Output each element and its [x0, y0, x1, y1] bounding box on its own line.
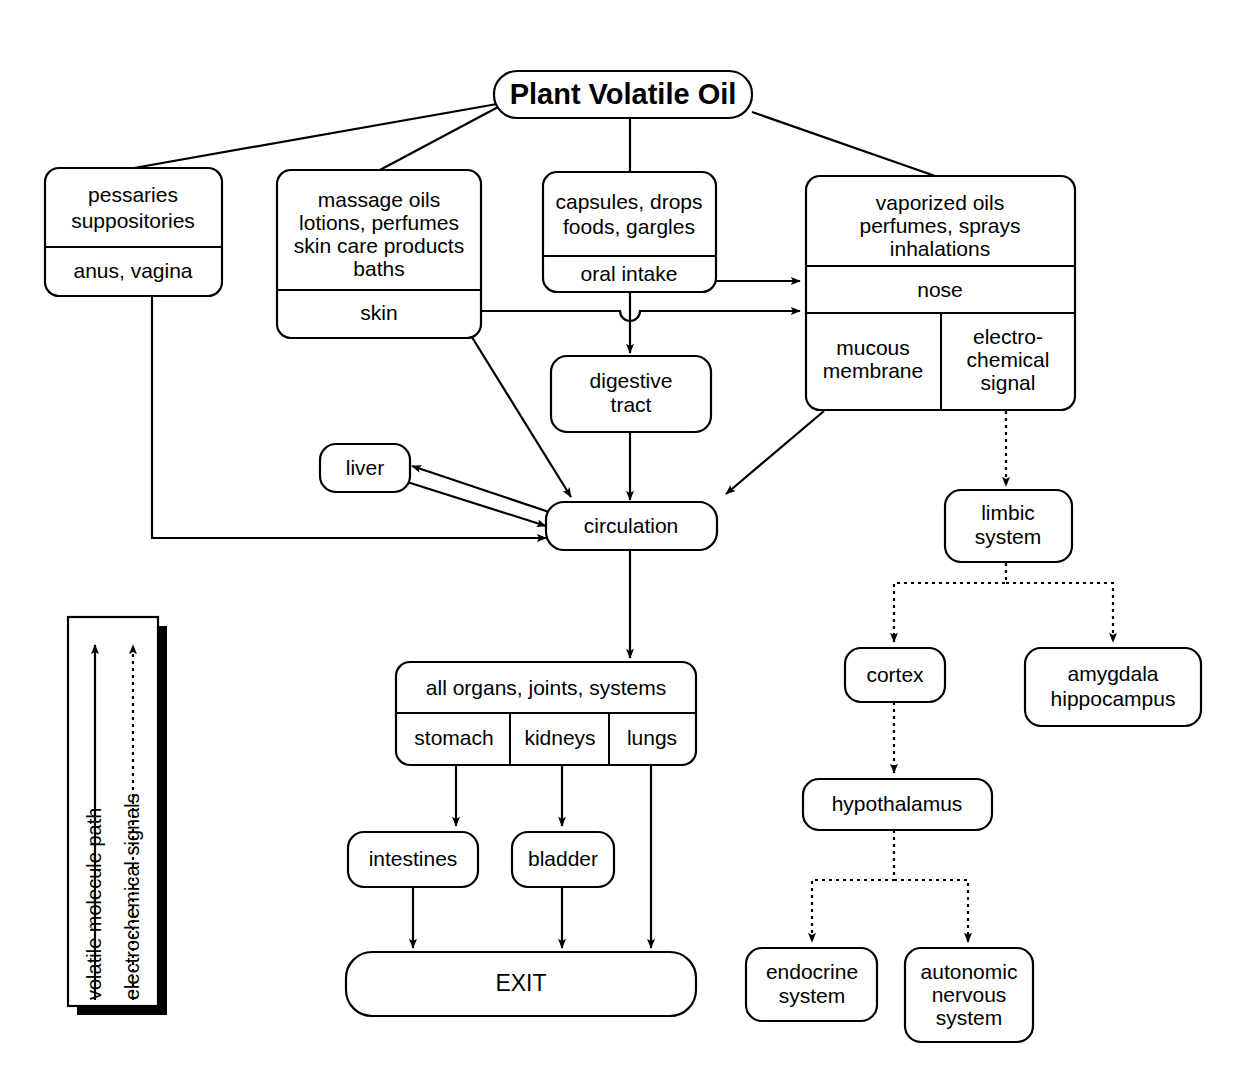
flowchart-canvas: Plant Volatile Oil pessaries suppositori…: [0, 0, 1242, 1078]
capsules-line2: foods, gargles: [563, 215, 695, 238]
vaporized-line3: inhalations: [890, 237, 990, 260]
node-digestive-tract[interactable]: digestive tract: [551, 356, 711, 432]
node-exit[interactable]: EXIT: [346, 952, 696, 1016]
massage-line1: massage oils: [318, 188, 441, 211]
exit-label: EXIT: [495, 970, 546, 996]
edge-root-to-massage: [378, 106, 500, 171]
legend-box: [68, 617, 158, 1006]
cortex-label: cortex: [866, 663, 924, 686]
node-autonomic-nervous-system[interactable]: autonomic nervous system: [905, 948, 1033, 1042]
digestive-line2: tract: [611, 393, 652, 416]
node-massage-oils[interactable]: massage oils lotions, perfumes skin care…: [277, 170, 481, 338]
legend-dotted-label: electrochemical signals: [121, 793, 143, 1000]
node-liver[interactable]: liver: [320, 444, 410, 492]
autonomic-line2: nervous: [932, 983, 1007, 1006]
amygdala-line2: hippocampus: [1051, 687, 1176, 710]
pessaries-line1: pessaries: [88, 183, 178, 206]
autonomic-line3: system: [936, 1006, 1003, 1029]
limbic-line1: limbic: [981, 501, 1035, 524]
edge-hypothalamus-to-endocrine: [812, 830, 894, 942]
organs-col3: lungs: [627, 726, 677, 749]
edge-hypothalamus-to-autonomic: [894, 880, 968, 942]
amygdala-line1: amygdala: [1067, 662, 1158, 685]
organs-col2: kidneys: [524, 726, 595, 749]
vaporized-line2: perfumes, sprays: [859, 214, 1020, 237]
node-endocrine-system[interactable]: endocrine system: [746, 948, 877, 1021]
edge-limbic-to-branch: [894, 563, 1006, 642]
node-vaporized-oils[interactable]: vaporized oils perfumes, sprays inhalati…: [806, 176, 1075, 410]
node-intestines[interactable]: intestines: [348, 832, 478, 887]
intestines-label: intestines: [369, 847, 458, 870]
vaporized-route: nose: [917, 278, 963, 301]
legend: volatile molecule path electrochemical s…: [68, 617, 167, 1015]
node-cortex[interactable]: cortex: [845, 648, 945, 702]
legend-solid-label: volatile molecule path: [83, 808, 105, 1000]
flowchart-svg: Plant Volatile Oil pessaries suppositori…: [0, 0, 1242, 1078]
liver-label: liver: [346, 456, 385, 479]
digestive-line1: digestive: [590, 369, 673, 392]
circulation-label: circulation: [584, 514, 679, 537]
autonomic-line1: autonomic: [921, 960, 1018, 983]
node-circulation[interactable]: circulation: [546, 502, 717, 550]
edge-limbic-to-amygdala: [1006, 583, 1113, 642]
edge-root-to-vaporized: [752, 112, 938, 177]
node-hypothalamus[interactable]: hypothalamus: [803, 779, 992, 830]
organs-header: all organs, joints, systems: [426, 676, 666, 699]
edge-mucous-to-circulation: [726, 411, 824, 494]
organs-col1: stomach: [414, 726, 493, 749]
signal-line2: chemical: [967, 348, 1050, 371]
hypothalamus-label: hypothalamus: [832, 792, 963, 815]
edge-skin-to-nose: [481, 311, 800, 321]
signal-line1: electro-: [973, 325, 1043, 348]
mucous-line2: membrane: [823, 359, 923, 382]
capsules-line1: capsules, drops: [555, 190, 702, 213]
pessaries-line2: suppositories: [71, 209, 195, 232]
vaporized-line1: vaporized oils: [876, 191, 1004, 214]
node-limbic-system[interactable]: limbic system: [945, 490, 1072, 562]
node-plant-volatile-oil[interactable]: Plant Volatile Oil: [494, 71, 752, 118]
node-amygdala-hippocampus[interactable]: amygdala hippocampus: [1025, 648, 1201, 726]
pessaries-route: anus, vagina: [73, 259, 192, 282]
massage-route: skin: [360, 301, 397, 324]
massage-line3: skin care products: [294, 234, 464, 257]
mucous-line1: mucous: [836, 336, 910, 359]
node-capsules[interactable]: capsules, drops foods, gargles oral inta…: [543, 172, 716, 292]
endocrine-line1: endocrine: [766, 960, 858, 983]
root-label: Plant Volatile Oil: [510, 78, 737, 110]
endocrine-line2: system: [779, 984, 846, 1007]
limbic-line2: system: [975, 525, 1042, 548]
capsules-route: oral intake: [581, 262, 678, 285]
signal-line3: signal: [981, 371, 1036, 394]
node-bladder[interactable]: bladder: [512, 832, 614, 887]
bladder-label: bladder: [528, 847, 598, 870]
node-pessaries[interactable]: pessaries suppositories anus, vagina: [45, 168, 222, 296]
node-all-organs[interactable]: all organs, joints, systems stomach kidn…: [396, 662, 696, 765]
massage-line2: lotions, perfumes: [299, 211, 459, 234]
massage-line4: baths: [353, 257, 404, 280]
